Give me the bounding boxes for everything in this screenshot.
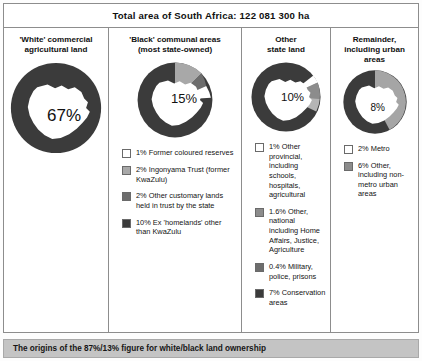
legend-swatch [122,166,131,175]
legend-label: 1% Other provincial, including schools, … [269,142,326,200]
column-heading-line2: agricultural land [19,45,92,55]
legend-swatch [122,192,131,201]
legend-item: 2% Metro [344,144,414,154]
legend-remainder-urban: 2% Metro 6% Other, including non-metro u… [335,144,414,207]
column-heading-line1: 'Black' communal areas [129,35,221,45]
legend-swatch [255,263,264,272]
legend-item: 6% Other, including non-metro urban area… [344,161,414,200]
legend-swatch [122,149,131,158]
legend-label: 10% Ex 'homelands' other than KwaZulu [136,218,237,237]
column-black-communal: 'Black' communal areas (most state-owned… [109,28,242,333]
legend-item: 0.4% Military, police, prisons [255,262,326,281]
donut-chart-black-communal: 15% [136,61,214,139]
percent-label: 67% [47,106,81,126]
column-heading-line2: state land [267,45,305,55]
column-heading: Other state land [267,32,305,57]
legend-label: 2% Ingonyama Trust (former KwaZulu) [136,165,237,184]
legend-swatch [255,289,264,298]
legend-swatch [255,208,264,217]
column-other-state-land: Other state land 10% [242,28,331,333]
legend-item: 2% Other customary lands held in trust b… [122,191,237,210]
land-ownership-infographic: Total area of South Africa: 122 081 300 … [0,0,422,361]
page-title: Total area of South Africa: 122 081 300 … [112,10,309,21]
legend-label: 1.6% Other, national including Home Affa… [269,207,326,255]
percent-label: 15% [171,91,197,106]
legend-swatch [122,219,131,228]
column-heading-line2: including urban areas [335,45,414,65]
column-heading-line2: (most state-owned) [129,45,221,55]
legend-item: 1.6% Other, national including Home Affa… [255,207,326,255]
column-heading: Remainder, including urban areas [335,32,414,65]
legend-label: 2% Other customary lands held in trust b… [136,191,237,210]
percent-label: 10% [281,91,304,103]
legend-label: 2% Metro [358,144,390,154]
column-heading-line1: 'White' commercial [19,35,92,45]
legend-black-communal: 1% Former coloured reserves 2% Ingonyama… [113,148,237,244]
column-heading-line1: Remainder, [335,35,414,45]
column-container: 'White' commercial agricultural land 67% [4,28,418,333]
donut-chart-white-commercial: 67% [9,61,103,155]
percent-label: 8% [371,102,385,113]
column-white-commercial: 'White' commercial agricultural land 67% [4,28,109,333]
column-heading-line1: Other [267,35,305,45]
legend-item: 1% Former coloured reserves [122,148,237,158]
bottom-banner: The origins of the 87%/13% figure for wh… [3,339,419,358]
infographic-frame: Total area of South Africa: 122 081 300 … [3,3,419,333]
legend-swatch [344,162,353,171]
legend-label: 1% Former coloured reserves [136,148,233,158]
banner-text: The origins of the 87%/13% figure for wh… [13,344,266,353]
column-heading: 'White' commercial agricultural land [19,32,92,57]
legend-item: 7% Conservation areas [255,288,326,307]
legend-item: 10% Ex 'homelands' other than KwaZulu [122,218,237,237]
legend-other-state-land: 1% Other provincial, including schools, … [246,142,326,314]
legend-label: 7% Conservation areas [269,288,326,307]
legend-item: 1% Other provincial, including schools, … [255,142,326,200]
legend-swatch [344,145,353,154]
column-remainder-urban: Remainder, including urban areas 8% [331,28,418,333]
column-heading: 'Black' communal areas (most state-owned… [129,32,221,57]
legend-item: 2% Ingonyama Trust (former KwaZulu) [122,165,237,184]
title-bar: Total area of South Africa: 122 081 300 … [4,4,418,28]
legend-label: 0.4% Military, police, prisons [269,262,326,281]
legend-label: 6% Other, including non-metro urban area… [358,161,414,200]
donut-chart-other-state-land: 10% [250,61,322,133]
legend-swatch [255,143,264,152]
donut-chart-remainder-urban: 8% [342,69,408,135]
